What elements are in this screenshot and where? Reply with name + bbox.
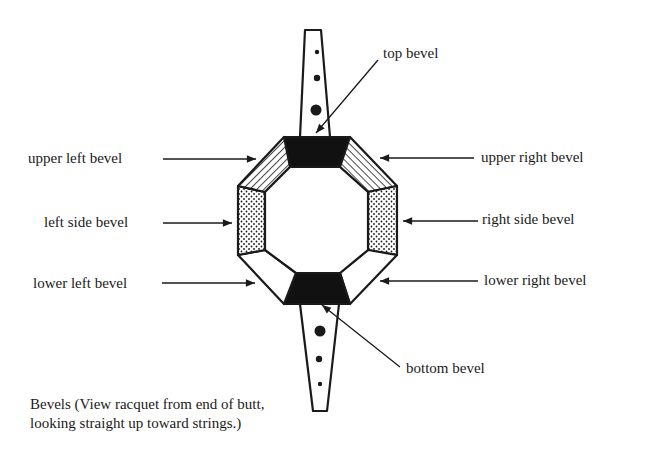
inner-octagon — [265, 167, 368, 273]
label-lower-right-bevel: lower right bevel — [484, 272, 586, 289]
left-side-bevel-shape — [238, 186, 265, 255]
right-side-bevel-shape — [368, 186, 397, 255]
label-lower-left-bevel: lower left bevel — [33, 275, 127, 292]
label-upper-right-bevel: upper right bevel — [481, 149, 583, 166]
label-bottom-bevel: bottom bevel — [406, 360, 485, 377]
label-left-side-bevel: left side bevel — [44, 214, 128, 231]
top-bevel-shape — [284, 137, 350, 167]
label-top-bevel: top bevel — [383, 45, 438, 62]
bottom-frame — [300, 304, 339, 411]
figure-caption: Bevels (View racquet from end of butt, l… — [30, 395, 300, 433]
label-upper-left-bevel: upper left bevel — [28, 150, 122, 167]
octagon-handle — [238, 137, 397, 304]
label-right-side-bevel: right side bevel — [482, 211, 574, 228]
